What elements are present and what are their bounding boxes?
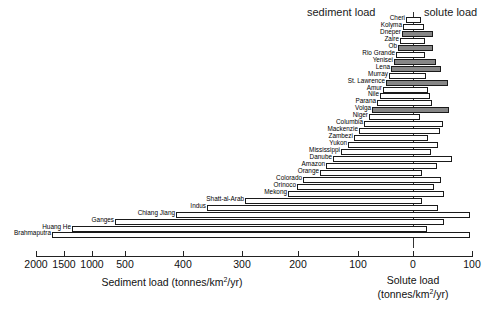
axis-tick-label: 300 [233,258,251,270]
river-label: Indus [0,203,206,209]
river-bar [72,226,427,232]
river-label: Zambezi [0,133,353,139]
river-bar [320,170,422,176]
river-label: Columbia [0,119,363,125]
river-label: Shatt-al-Arab [0,196,244,202]
river-label: Volga [0,105,371,111]
chart-container: sediment load solute load CheriKolymaDne… [0,0,490,309]
axis-tick-label: 100 [349,258,367,270]
river-bar [377,100,432,106]
river-bar [369,114,420,120]
river-label: Kolyma [0,22,402,28]
axis-tick-label: 1000 [80,258,103,270]
river-bar [52,232,470,238]
axis-tick [358,251,359,256]
axis-tick-label: 100 [463,258,481,270]
axis-tick-label: 400 [174,258,192,270]
river-bar [380,93,430,99]
axis-tick [92,251,93,256]
river-bar [386,80,448,86]
solute-axis-title-line2: (tonnes/km2/yr) [377,288,448,300]
river-bar [391,66,441,72]
river-label: Cheri [0,15,405,21]
river-bar [400,38,425,44]
axis-tick-label: 2000 [24,258,47,270]
river-bar [348,142,438,148]
river-bar [288,191,444,197]
river-label: Niger [0,112,368,118]
river-bar [383,87,428,93]
river-bar [303,177,441,183]
sediment-axis-title: Sediment load (tonnes/km2/yr) [101,276,242,288]
axis-tick [472,251,473,256]
river-bar [207,205,438,211]
river-label: Yenisei [0,57,393,63]
axis-tick-label: 500 [116,258,134,270]
river-label: Ob [0,43,397,49]
river-bar [406,17,421,23]
axis-tick [64,251,65,256]
axis-tick [36,251,37,256]
river-bar [394,59,436,65]
river-bar [398,45,433,51]
river-bar [176,212,470,218]
river-bar [359,128,440,134]
axis-tick [298,251,299,256]
bar-row: Ganges [0,219,490,225]
river-bar [115,219,444,225]
axis-tick-label: 0 [410,258,416,270]
axis-tick [413,251,414,256]
superscript-two: 2 [223,276,227,283]
river-label: Chiang Jiang [0,210,175,216]
river-label: Yukon [0,140,347,146]
river-label: Brahmaputra [0,230,51,236]
river-bar [372,107,449,113]
solute-axis-title-line1: Solute load [387,274,440,286]
river-label: Murray [0,71,388,77]
river-label: Mississippi [0,147,340,153]
axis-tick [125,251,126,256]
river-label: Mackenzie [0,126,358,132]
bar-rows: CheriKolymaDneperZaireObRio GrandeYenise… [0,0,490,250]
river-label: Danube [0,154,332,160]
superscript-two: 2 [429,288,433,295]
river-bar [402,31,433,37]
river-bar [297,184,434,190]
river-label: Lena [0,64,390,70]
river-label: Dneper [0,29,401,35]
river-bar [333,156,452,162]
river-label: Ganges [0,217,114,223]
river-label: Orinoco [0,182,296,188]
river-label: Parana [0,98,376,104]
river-label: St. Lawrence [0,78,385,84]
axis-tick [183,251,184,256]
river-label: Colorado [0,175,302,181]
river-bar [396,52,425,58]
river-bar [341,149,431,155]
river-bar [403,24,424,30]
axis-tick-label: 1500 [52,258,75,270]
river-label: Amazon [0,161,325,167]
river-label: Zaire [0,36,399,42]
river-label: Orange [0,168,319,174]
river-bar [245,198,422,204]
axis-tick [242,251,243,256]
bar-row: Brahmaputra [0,232,490,238]
river-label: Rio Grande [0,50,395,56]
river-label: Amur [0,85,382,91]
river-bar [326,163,437,169]
river-bar [354,135,428,141]
river-bar [389,73,426,79]
axis-tick-label: 200 [289,258,307,270]
river-bar [364,121,443,127]
bar-row: Huang He [0,226,490,232]
river-label: Nile [0,91,379,97]
x-axis-line [36,256,473,257]
